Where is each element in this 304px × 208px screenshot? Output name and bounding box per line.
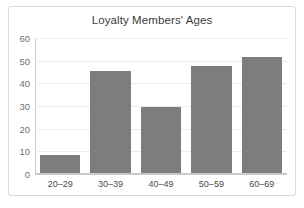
y-axis-tick-label: 30 [19, 101, 30, 112]
y-axis-tick-label: 50 [19, 55, 30, 66]
bar [90, 71, 130, 173]
x-axis-tick-label: 30–39 [85, 179, 135, 189]
bar [191, 66, 231, 173]
x-axis-tick-label: 50–59 [186, 179, 236, 189]
y-axis-tick-label: 10 [19, 146, 30, 157]
y-axis-tick-label: 0 [25, 169, 30, 180]
bar [242, 57, 282, 173]
chart-card: Loyalty Members' Ages 0102030405060 20–2… [8, 6, 296, 196]
y-axis-tick-label: 40 [19, 78, 30, 89]
gridline [35, 38, 287, 39]
chart-title: Loyalty Members' Ages [9, 14, 295, 26]
gridline [35, 174, 287, 175]
x-axis-tick-label: 40–49 [136, 179, 186, 189]
bar [141, 107, 181, 173]
x-axis-tick-label: 20–29 [35, 179, 85, 189]
y-axis-tick-label: 20 [19, 123, 30, 134]
x-axis-tick-label: 60–69 [237, 179, 287, 189]
bar [40, 155, 80, 173]
y-axis-tick-label: 60 [19, 33, 30, 44]
plot-area: 0102030405060 20–2930–3940–4950–5960–69 [35, 38, 287, 174]
